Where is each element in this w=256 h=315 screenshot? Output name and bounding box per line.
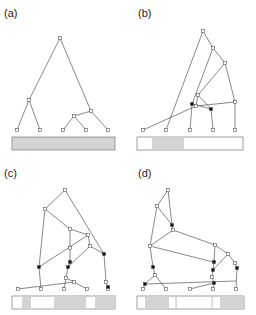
- bar-c: [12, 296, 115, 309]
- bar-d: [137, 296, 244, 309]
- graph-b: [143, 31, 235, 130]
- tree-a: [17, 38, 108, 130]
- nodes-a: [16, 37, 110, 132]
- graph-c: [18, 190, 108, 289]
- genealogy-diagrams: [0, 0, 256, 315]
- bar-a: [12, 137, 115, 150]
- nodes-d-filled: [144, 224, 239, 286]
- nodes-b-open: [142, 30, 237, 132]
- bar-b: [137, 137, 243, 150]
- nodes-d-open: [142, 189, 238, 291]
